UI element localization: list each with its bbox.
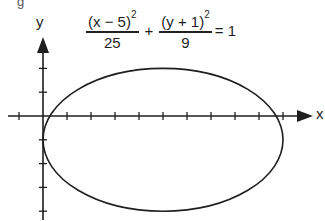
ellipse-curve xyxy=(43,68,283,211)
ellipse-plot xyxy=(0,0,325,221)
x-axis-label: x xyxy=(316,105,324,122)
x-axis-arrow-icon xyxy=(297,110,313,122)
y-axis-arrow-icon xyxy=(37,37,49,53)
y-axis-label: y xyxy=(36,13,44,30)
axes xyxy=(8,48,300,220)
